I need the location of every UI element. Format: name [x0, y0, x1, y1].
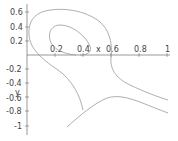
contour-plot: 0.2 0.4 0.6 0.8 1 x 0.6 0.4 0.2 -0.2 -0.… [0, 0, 178, 141]
y-axis-label: y [15, 88, 20, 97]
x-tick-label: 1 [165, 45, 170, 54]
x-axis-label: x [96, 45, 101, 54]
x-tick-label: 0.8 [134, 45, 147, 54]
lower-branch [67, 97, 168, 127]
outer-curve [29, 9, 168, 110]
y-tick-label: -0.8 [6, 107, 22, 116]
y-tick-label: -0.2 [6, 65, 22, 74]
y-tick-label: 0.4 [10, 23, 23, 32]
y-tick-label: 0.6 [10, 8, 23, 17]
x-tick-label: 0.2 [50, 45, 63, 54]
y-tick-label: 0.2 [10, 37, 23, 46]
x-tick-label: 0.4 [77, 45, 90, 54]
y-tick-label: -1 [14, 122, 22, 131]
x-tick-label: 0.6 [106, 45, 119, 54]
y-tick-label: -0.4 [6, 79, 22, 88]
